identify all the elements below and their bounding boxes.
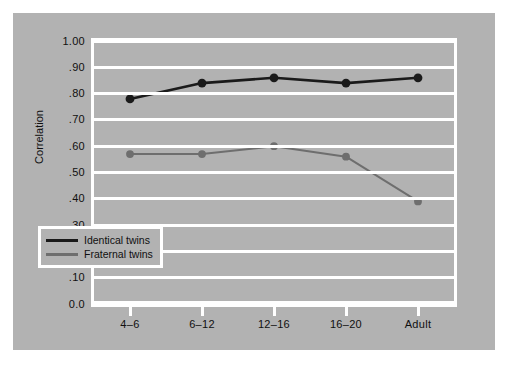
x-axis-tick-label: 4–6 xyxy=(120,318,139,330)
legend-swatch-identical-icon xyxy=(46,239,78,242)
y-axis-tick-label: .90 xyxy=(39,62,85,73)
gridline xyxy=(94,301,454,304)
legend-label-fraternal: Fraternal twins xyxy=(84,248,153,260)
gridline xyxy=(94,145,454,148)
x-axis-tick-label: 16–20 xyxy=(330,318,362,330)
y-axis-tick-label: 0.0 xyxy=(39,299,85,310)
data-point xyxy=(126,150,134,158)
gridline xyxy=(94,276,454,279)
x-axis-tick-mark xyxy=(345,307,348,316)
data-point xyxy=(126,95,135,104)
x-axis-tick-label: 6–12 xyxy=(189,318,215,330)
y-axis-tick-label: .10 xyxy=(39,272,85,283)
legend-swatch-fraternal-icon xyxy=(46,253,78,256)
chart-figure: Correlation 1.00.90.80.70.60.50.40.30.20… xyxy=(13,13,495,350)
gridline xyxy=(94,92,454,95)
y-axis-tick-label: 1.00 xyxy=(39,36,85,47)
gridline xyxy=(94,40,454,43)
gridline xyxy=(94,197,454,200)
gridline xyxy=(94,171,454,174)
x-axis-tick-mark xyxy=(129,307,132,316)
gridline xyxy=(94,66,454,69)
data-point xyxy=(342,79,351,88)
data-point xyxy=(198,79,207,88)
y-axis-tick-label: .50 xyxy=(39,167,85,178)
data-point xyxy=(270,73,279,82)
x-axis-tick-marks xyxy=(91,307,457,316)
x-axis-tick-mark xyxy=(201,307,204,316)
legend-label-identical: Identical twins xyxy=(84,234,150,246)
x-axis-tick-label: 12–16 xyxy=(258,318,290,330)
y-axis-tick-label: .80 xyxy=(39,88,85,99)
data-point xyxy=(342,153,350,161)
x-axis-tick-mark xyxy=(417,307,420,316)
x-axis-tick-mark xyxy=(273,307,276,316)
legend-item-fraternal: Fraternal twins xyxy=(46,247,153,261)
y-axis-tick-label: .60 xyxy=(39,141,85,152)
x-axis-tick-label: Adult xyxy=(405,318,432,330)
y-axis-tick-label: .40 xyxy=(39,193,85,204)
gridline xyxy=(94,118,454,121)
y-axis-tick-label: .70 xyxy=(39,114,85,125)
chart-legend: Identical twins Fraternal twins xyxy=(38,226,163,268)
legend-item-identical: Identical twins xyxy=(46,233,153,247)
x-axis-tick-labels: 4–66–1212–1616–20Adult xyxy=(91,318,457,336)
data-point xyxy=(414,73,423,82)
data-point xyxy=(198,150,206,158)
